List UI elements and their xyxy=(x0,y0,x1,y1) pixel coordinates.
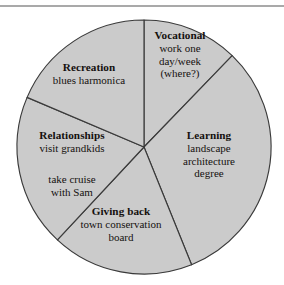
pie-label-learning-line3: degree xyxy=(166,167,252,180)
pie-slice-label-layer: Vocational work one day/week (where?) Le… xyxy=(0,0,284,285)
pie-label-recreation-title: Recreation xyxy=(33,61,145,74)
pie-label-relationships: Relationships visit grandkids take cruis… xyxy=(16,129,128,199)
pie-label-recreation-line1: blues harmonica xyxy=(33,74,145,87)
pie-label-giving-back-title: Giving back xyxy=(62,205,180,218)
pie-label-giving-back-line1: town conservation xyxy=(62,218,180,231)
figure-root: Vocational work one day/week (where?) Le… xyxy=(0,0,284,285)
pie-label-vocational-line2: day/week xyxy=(143,55,217,68)
pie-label-learning-line2: architecture xyxy=(166,155,252,168)
pie-label-vocational-line3: (where?) xyxy=(143,67,217,80)
pie-label-giving-back: Giving back town conservation board xyxy=(62,205,180,243)
pie-label-relationships-line2: take cruise xyxy=(16,173,128,186)
pie-label-learning-line1: landscape xyxy=(166,142,252,155)
pie-label-relationships-subblock: take cruise with Sam xyxy=(16,155,128,199)
pie-label-recreation: Recreation blues harmonica xyxy=(33,61,145,87)
pie-label-relationships-title: Relationships xyxy=(16,129,128,142)
pie-label-learning: Learning landscape architecture degree xyxy=(166,129,252,180)
pie-label-vocational-line1: work one xyxy=(143,42,217,55)
pie-label-giving-back-line2: board xyxy=(62,231,180,244)
pie-label-relationships-line3: with Sam xyxy=(16,186,128,199)
pie-label-learning-title: Learning xyxy=(166,129,252,142)
pie-label-relationships-line1: visit grandkids xyxy=(16,142,128,155)
pie-label-vocational: Vocational work one day/week (where?) xyxy=(143,29,217,80)
pie-label-vocational-title: Vocational xyxy=(143,29,217,42)
